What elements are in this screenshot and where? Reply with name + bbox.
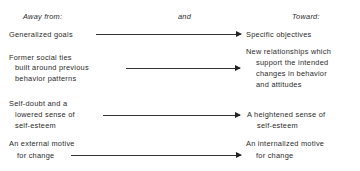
from-text: behavior patterns [15, 74, 76, 84]
to-text: A heightened sense of [247, 110, 325, 120]
to-text: Specific objectives [246, 30, 312, 40]
from-text: for change [17, 151, 54, 161]
from-text: Former social ties [9, 53, 72, 63]
to-text: changes in behavior [256, 69, 327, 79]
header-away-from: Away from: [23, 12, 62, 22]
arrow-icon [96, 34, 241, 35]
arrow-icon [71, 155, 241, 156]
to-text: An internalized motive [246, 139, 324, 149]
to-text: self-esteem [257, 121, 298, 131]
from-text: An external motive [9, 139, 75, 149]
header-and: and [178, 12, 191, 22]
from-text: self-esteem [15, 121, 56, 131]
from-text: built around previous [15, 63, 89, 73]
to-text: support the intended [256, 58, 328, 68]
arrow-icon [126, 68, 240, 69]
to-text: and attitudes [256, 80, 302, 90]
to-text: New relationships which [246, 47, 331, 57]
to-text: for change [256, 151, 293, 161]
from-text: lowered sense of [15, 110, 75, 120]
header-toward: Toward: [292, 12, 320, 22]
arrow-icon [103, 115, 240, 116]
from-text: Self-doubt and a [9, 99, 67, 109]
from-text: Generalized goals [9, 30, 73, 40]
